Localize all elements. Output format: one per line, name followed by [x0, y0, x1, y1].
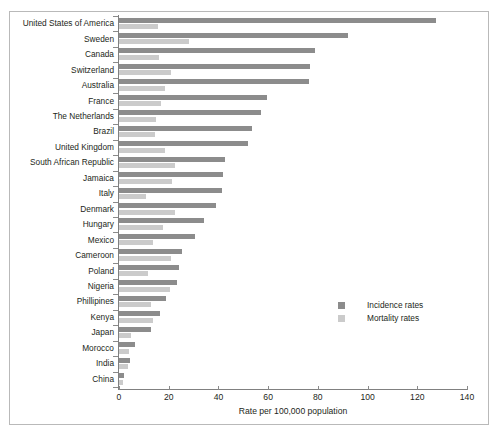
bar-incidence	[119, 249, 182, 254]
y-axis-tick	[113, 171, 118, 172]
bar-incidence	[119, 234, 195, 239]
legend-swatch-incidence-icon	[338, 302, 345, 309]
y-axis-labels: United States of AmericaSwedenCanadaSwit…	[4, 16, 114, 387]
y-axis-label: Jamaica	[4, 173, 114, 183]
bar-mortality	[119, 380, 123, 385]
bar-group	[119, 232, 467, 247]
bar-group	[119, 78, 467, 93]
bar-mortality	[119, 117, 156, 122]
bar-mortality	[119, 86, 165, 91]
y-axis-tick	[113, 186, 118, 187]
bar-group	[119, 217, 467, 232]
y-axis-label: The Netherlands	[4, 111, 114, 121]
bar-mortality	[119, 194, 146, 199]
bar-group	[119, 279, 467, 294]
bar-group	[119, 325, 467, 340]
y-axis-label: Canada	[4, 49, 114, 59]
y-axis-label: Poland	[4, 266, 114, 276]
chart-figure: United States of AmericaSwedenCanadaSwit…	[0, 0, 498, 438]
bar-group	[119, 62, 467, 77]
y-axis-label: Morocco	[4, 343, 114, 353]
x-axis-line	[118, 389, 468, 390]
y-axis-label: Switzerland	[4, 65, 114, 75]
bar-incidence	[119, 342, 135, 347]
y-axis-tick	[113, 372, 118, 373]
x-axis-tick-label: 20	[164, 392, 174, 403]
bar-incidence	[119, 311, 160, 316]
y-axis-tick	[113, 325, 118, 326]
bar-incidence	[119, 218, 204, 223]
bar-mortality	[119, 24, 158, 29]
bar-group	[119, 341, 467, 356]
bar-mortality	[119, 318, 153, 323]
bar-mortality	[119, 349, 129, 354]
x-axis-tick-label: 100	[360, 392, 374, 403]
y-axis-tick	[113, 310, 118, 311]
bar-incidence	[119, 48, 315, 53]
y-axis-label: Australia	[4, 80, 114, 90]
x-axis-tick-label: 80	[313, 392, 323, 403]
x-axis-tick-label: 0	[117, 392, 122, 403]
bar-incidence	[119, 110, 261, 115]
y-axis-tick	[113, 202, 118, 203]
bar-incidence	[119, 296, 166, 301]
bar-mortality	[119, 256, 171, 261]
bar-group	[119, 372, 467, 387]
bar-group	[119, 202, 467, 217]
x-axis-title: Rate per 100,000 population	[119, 406, 467, 416]
bar-incidence	[119, 373, 124, 378]
bar-mortality	[119, 55, 159, 60]
x-axis-tick	[368, 386, 369, 390]
bar-incidence	[119, 79, 309, 84]
bar-incidence	[119, 358, 130, 363]
bar-incidence	[119, 188, 222, 193]
y-axis-label: United Kingdom	[4, 142, 114, 152]
y-axis-label: China	[4, 374, 114, 384]
y-axis-tick	[113, 294, 118, 295]
y-axis-label: Cameroon	[4, 250, 114, 260]
y-axis-label: Nigeria	[4, 281, 114, 291]
x-axis-tick	[119, 386, 120, 390]
bar-mortality	[119, 39, 189, 44]
bar-group	[119, 356, 467, 371]
y-axis-tick	[113, 356, 118, 357]
y-axis-tick	[113, 47, 118, 48]
legend-swatch-mortality-icon	[338, 315, 345, 322]
y-axis-label: France	[4, 96, 114, 106]
y-axis-label: Mexico	[4, 235, 114, 245]
y-axis-tick	[113, 232, 118, 233]
bar-group	[119, 124, 467, 139]
y-axis-label: Hungary	[4, 219, 114, 229]
y-axis-tick	[113, 78, 118, 79]
legend-label-incidence: Incidence rates	[367, 299, 423, 311]
bar-group	[119, 186, 467, 201]
y-axis-label: Kenya	[4, 312, 114, 322]
x-axis-tick	[318, 386, 319, 390]
x-axis-tick	[169, 386, 170, 390]
y-axis-label: Phillipines	[4, 296, 114, 306]
x-axis-tick	[268, 386, 269, 390]
bar-mortality	[119, 287, 170, 292]
y-axis-label: Sweden	[4, 34, 114, 44]
bar-group	[119, 263, 467, 278]
bar-group	[119, 47, 467, 62]
bar-mortality	[119, 70, 171, 75]
bar-mortality	[119, 271, 148, 276]
bar-mortality	[119, 101, 161, 106]
bar-mortality	[119, 179, 172, 184]
bar-group	[119, 109, 467, 124]
bar-incidence	[119, 18, 436, 23]
x-axis-tick-label: 120	[410, 392, 424, 403]
y-axis-tick	[113, 31, 118, 32]
y-axis-tick	[113, 109, 118, 110]
y-axis-label: Japan	[4, 327, 114, 337]
bar-group	[119, 31, 467, 46]
bar-incidence	[119, 327, 151, 332]
y-axis-label: Brazil	[4, 126, 114, 136]
y-axis-tick	[113, 140, 118, 141]
bar-group	[119, 248, 467, 263]
bar-mortality	[119, 333, 131, 338]
bar-incidence	[119, 280, 177, 285]
bar-incidence	[119, 265, 179, 270]
bar-group	[119, 171, 467, 186]
